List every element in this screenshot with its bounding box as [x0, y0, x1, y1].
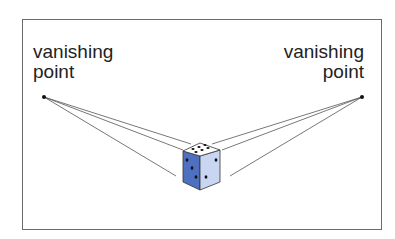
perspective-drawing — [0, 0, 395, 239]
right-vanishing-point-dot — [360, 95, 364, 99]
dice-icon — [183, 143, 220, 190]
right-perspective-lines — [212, 97, 362, 176]
left-vanishing-point-dot — [42, 95, 46, 99]
left-perspective-lines — [44, 97, 193, 199]
